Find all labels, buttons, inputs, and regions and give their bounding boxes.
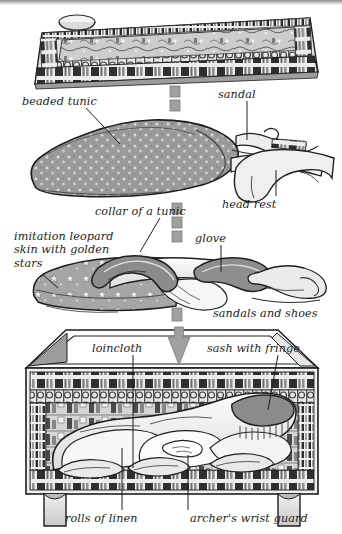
- label-rolls-of-linen: rolls of linen: [65, 512, 138, 525]
- label-beaded-tunic: beaded tunic: [22, 95, 97, 108]
- label-sash-with-fringe: sash with fringe: [207, 342, 300, 355]
- painted-chest-lid: [35, 15, 318, 89]
- arrow-segment-2: [170, 100, 180, 111]
- label-collar-of-a-tunic: collar of a tunic: [95, 205, 186, 218]
- label-loincloth: loincloth: [92, 342, 142, 355]
- label-head-rest: head rest: [222, 198, 276, 211]
- arrow-segment-1: [170, 86, 180, 97]
- illustration-canvas: beaded tunicsandalhead restcollar of a t…: [0, 0, 342, 534]
- label-imitation-leopard: imitation leopard skin with golden stars: [14, 230, 113, 270]
- arrow-segment-5: [172, 231, 182, 242]
- head-rest-object: [231, 150, 334, 202]
- label-sandal: sandal: [218, 88, 256, 101]
- leader-collar-of-a-tunic: [140, 218, 160, 252]
- label-glove: glove: [195, 232, 226, 245]
- label-archers-wrist-guard: archer's wrist guard: [190, 512, 308, 525]
- arrow-segment-6: [172, 308, 182, 321]
- label-sandals-and-shoes: sandals and shoes: [213, 307, 318, 320]
- lid-knob: [59, 15, 95, 30]
- beaded-tunic-object: [31, 120, 238, 197]
- arrow-segment-4: [172, 217, 182, 228]
- chest-box: [26, 330, 318, 526]
